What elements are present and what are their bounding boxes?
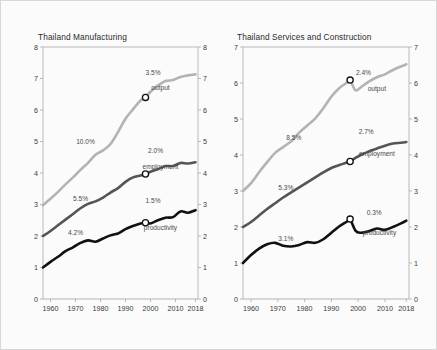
ytick-label-left: 0 <box>234 295 238 304</box>
xtick-label: 2010 <box>377 304 393 313</box>
growth-rate-annotation-productivity-pre-1998: 4.2% <box>68 229 83 236</box>
xtick-label: 1990 <box>118 304 134 313</box>
xtick-label: 2018 <box>188 304 204 313</box>
xtick-label: 2018 <box>398 304 414 313</box>
series-label-employment: employment <box>359 150 395 158</box>
ytick-label-left: 1 <box>34 263 38 272</box>
xtick-label: 1990 <box>323 304 339 313</box>
xtick-label: 1960 <box>43 304 59 313</box>
ytick-label-right: 1 <box>414 259 418 268</box>
series-line-productivity <box>243 219 406 263</box>
ytick-label-left: 7 <box>34 74 38 83</box>
ytick-label-right: 7 <box>203 74 207 83</box>
ytick-label-right: 8 <box>203 43 207 52</box>
growth-rate-annotation-productivity-pre-1997: 3.1% <box>278 235 293 242</box>
ytick-label-right: 0 <box>414 295 418 304</box>
xtick-label: 1970 <box>68 304 84 313</box>
ytick-label-right: 1 <box>203 263 207 272</box>
xtick-label: 1980 <box>93 304 109 313</box>
growth-rate-annotation-employment-pre-1998: 5.5% <box>73 195 88 202</box>
ytick-label-right: 4 <box>203 169 207 178</box>
xtick-label: 2000 <box>350 304 366 313</box>
chart-svg-left: 0011223344556677881960197019801990200020… <box>1 1 219 350</box>
break-marker-employment <box>142 171 148 177</box>
series-label-productivity: productivity <box>363 229 397 237</box>
ytick-label-right: 2 <box>414 223 418 232</box>
series-label-output: output <box>151 84 170 92</box>
ytick-label-right: 6 <box>414 79 418 88</box>
ytick-label-left: 5 <box>34 137 38 146</box>
break-marker-productivity <box>347 216 353 222</box>
ytick-label-left: 3 <box>234 187 238 196</box>
growth-rate-annotation-employment-post-1998: 2.0% <box>148 147 163 154</box>
ytick-label-left: 7 <box>234 43 238 52</box>
growth-rate-annotation-productivity-post-1997: 0.3% <box>367 209 382 216</box>
growth-rate-annotation-employment-pre-1997: 5.3% <box>278 184 293 191</box>
growth-rate-annotation-productivity-post-1998: 1.5% <box>145 197 160 204</box>
ytick-label-right: 3 <box>203 200 207 209</box>
growth-rate-annotation-output-post-1998: 3.5% <box>145 69 160 76</box>
growth-rate-annotation-output-pre-1997: 8.5% <box>286 134 301 141</box>
xtick-label: 1970 <box>270 304 286 313</box>
growth-rate-annotation-output-pre-1998: 10.0% <box>76 138 95 145</box>
ytick-label-left: 4 <box>34 169 38 178</box>
break-marker-output <box>347 77 353 83</box>
break-marker-employment <box>347 158 353 164</box>
ytick-label-left: 3 <box>34 200 38 209</box>
growth-rate-annotation-employment-post-1997: 2.7% <box>359 128 374 135</box>
ytick-label-left: 4 <box>234 151 238 160</box>
ytick-label-left: 6 <box>234 79 238 88</box>
ytick-label-right: 7 <box>414 43 418 52</box>
ytick-label-left: 2 <box>34 232 38 241</box>
xtick-label: 1960 <box>243 304 259 313</box>
ytick-label-left: 5 <box>234 115 238 124</box>
xtick-label: 2000 <box>143 304 159 313</box>
ytick-label-right: 5 <box>414 115 418 124</box>
ytick-label-right: 0 <box>203 295 207 304</box>
break-marker-output <box>142 94 148 100</box>
growth-rate-annotation-output-post-1997: 2.4% <box>356 69 371 76</box>
chart-panel-manufacturing: Thailand Manufacturing 00112233445566778… <box>1 1 219 350</box>
series-label-output: output <box>368 85 387 93</box>
ytick-label-left: 1 <box>234 259 238 268</box>
ytick-label-right: 6 <box>203 106 207 115</box>
chart-panel-services: Thailand Services and Construction 00112… <box>219 1 437 350</box>
series-label-employment: employment <box>143 163 179 171</box>
ytick-label-right: 4 <box>414 151 418 160</box>
ytick-label-left: 6 <box>34 106 38 115</box>
xtick-label: 2010 <box>168 304 184 313</box>
xtick-label: 1980 <box>297 304 313 313</box>
ytick-label-left: 2 <box>234 223 238 232</box>
figure-container: Thailand Manufacturing 00112233445566778… <box>0 0 437 350</box>
ytick-label-right: 3 <box>414 187 418 196</box>
series-label-productivity: productivity <box>144 224 178 232</box>
chart-svg-right: 0011223344556677196019701980199020002010… <box>219 1 437 350</box>
ytick-label-right: 5 <box>203 137 207 146</box>
ytick-label-left: 0 <box>34 295 38 304</box>
ytick-label-right: 2 <box>203 232 207 241</box>
ytick-label-left: 8 <box>34 43 38 52</box>
